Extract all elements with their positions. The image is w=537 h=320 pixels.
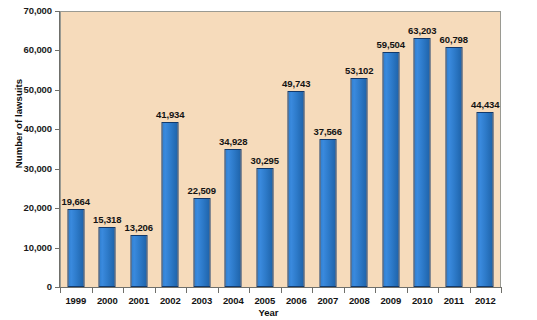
bar-group[interactable]: 44,434 [470, 11, 502, 287]
x-axis-title: Year [0, 307, 537, 318]
x-tick-mark [186, 288, 187, 293]
bar-value-label: 60,798 [440, 34, 468, 45]
x-tick-mark [312, 288, 313, 293]
bar[interactable] [193, 198, 210, 287]
bar-value-label: 34,928 [219, 136, 247, 147]
bar-value-label: 22,509 [188, 185, 216, 196]
x-tick-mark [344, 288, 345, 293]
x-tick-mark [281, 288, 282, 293]
bar[interactable] [414, 38, 431, 287]
y-tick-label: 10,000 [24, 242, 52, 253]
bar-value-label: 41,934 [156, 109, 184, 120]
bar-value-label: 53,102 [345, 65, 373, 76]
bar[interactable] [445, 47, 462, 287]
x-tick-mark [375, 288, 376, 293]
bar[interactable] [477, 112, 494, 287]
y-tick-label: 40,000 [24, 123, 52, 134]
x-tick-mark [92, 288, 93, 293]
bar-group[interactable]: 49,743 [281, 11, 313, 287]
bar[interactable] [351, 78, 368, 287]
bar-value-label: 19,664 [62, 196, 90, 207]
bar[interactable] [67, 209, 84, 287]
bar-value-label: 13,206 [125, 222, 153, 233]
y-tick-label: 30,000 [24, 163, 52, 174]
bar-group[interactable]: 60,798 [438, 11, 470, 287]
bar[interactable] [319, 139, 336, 287]
bar-group[interactable]: 63,203 [407, 11, 439, 287]
y-tick-label: 60,000 [24, 44, 52, 55]
bar-group[interactable]: 15,318 [92, 11, 124, 287]
bar-group[interactable]: 41,934 [155, 11, 187, 287]
bar-group[interactable]: 59,504 [375, 11, 407, 287]
bar[interactable] [225, 149, 242, 287]
x-tick-mark [249, 288, 250, 293]
x-tick-mark [155, 288, 156, 293]
y-tick-label: 0 [47, 281, 52, 292]
y-tick-label: 20,000 [24, 202, 52, 213]
x-tick-mark [60, 288, 61, 293]
bar-chart: 010,00020,00030,00040,00050,00060,00070,… [0, 0, 537, 320]
bar-value-label: 37,566 [314, 126, 342, 137]
bar-group[interactable]: 30,295 [249, 11, 281, 287]
bar-value-label: 59,504 [377, 39, 405, 50]
y-tick-label: 50,000 [24, 84, 52, 95]
bar-value-label: 44,434 [471, 99, 499, 110]
x-tick-mark [123, 288, 124, 293]
x-tick-mark [501, 288, 502, 293]
bar-value-label: 15,318 [93, 214, 121, 225]
x-tick-mark [438, 288, 439, 293]
bar-group[interactable]: 34,928 [218, 11, 250, 287]
bar-group[interactable]: 37,566 [312, 11, 344, 287]
bar[interactable] [382, 52, 399, 287]
bar-group[interactable]: 19,664 [60, 11, 92, 287]
bar[interactable] [130, 235, 147, 287]
bar-group[interactable]: 22,509 [186, 11, 218, 287]
bar-group[interactable]: 13,206 [123, 11, 155, 287]
bar-value-label: 30,295 [251, 155, 279, 166]
bar[interactable] [288, 91, 305, 287]
y-tick-label: 70,000 [24, 5, 52, 16]
bar[interactable] [256, 168, 273, 287]
bar[interactable] [162, 122, 179, 287]
x-tick-label: 2012 [465, 295, 505, 306]
x-tick-mark [407, 288, 408, 293]
bar-value-label: 63,203 [408, 25, 436, 36]
bar-group[interactable]: 53,102 [344, 11, 376, 287]
bar[interactable] [99, 227, 116, 287]
x-tick-mark [470, 288, 471, 293]
bar-value-label: 49,743 [282, 78, 310, 89]
x-tick-mark [218, 288, 219, 293]
